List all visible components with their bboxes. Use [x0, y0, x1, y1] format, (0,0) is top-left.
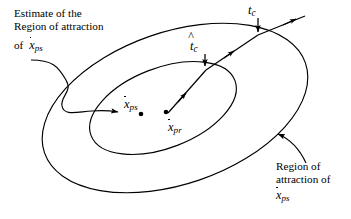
trajectory-arrowhead-outer — [283, 19, 296, 25]
hat-t: t — [190, 39, 194, 54]
symbol-x-ps-region: xps — [276, 187, 330, 204]
label-x-pr: xpr — [168, 119, 182, 136]
annotation-estimate-line2: Region of attraction — [14, 20, 103, 33]
point-x-ps — [139, 112, 144, 117]
label-x-ps: xps — [124, 96, 138, 113]
subscript-ps: ps — [281, 194, 289, 204]
annotation-region-line2: attraction of — [276, 173, 330, 186]
overbar-x: x — [29, 37, 34, 52]
annotation-of-word: of — [14, 39, 23, 51]
annotation-region-line1: Region of — [276, 160, 330, 173]
tc-subscript: c — [252, 8, 256, 18]
overbar-x: x — [124, 96, 130, 112]
overbar-x: x — [168, 119, 174, 135]
trajectory-arrowhead-inner — [178, 93, 186, 102]
x-ps-subscript: ps — [130, 102, 138, 112]
subscript-ps: ps — [35, 43, 43, 53]
leader-region-of-attraction — [278, 134, 306, 163]
x-pr-subscript: pr — [174, 125, 182, 135]
figure-canvas: Estimate of the Region of attraction ofx… — [0, 0, 351, 219]
label-tc: tc — [248, 3, 256, 19]
annotation-region-of-attraction: Region of attraction of xps — [276, 160, 330, 204]
point-x-pr — [164, 110, 169, 115]
label-tc-hat: tc — [190, 39, 198, 55]
annotation-estimate-symbol-line: ofxps — [14, 37, 43, 54]
inner-ellipse-estimate-region — [77, 43, 249, 173]
leader-estimate-region — [31, 60, 118, 113]
symbol-x-ps-estimate: xps — [29, 38, 43, 52]
trajectory-arrowhead-mid — [224, 51, 234, 58]
annotation-estimate-region: Estimate of the Region of attraction — [14, 7, 103, 33]
tc-hat-subscript: c — [194, 44, 198, 54]
annotation-estimate-line1: Estimate of the — [14, 7, 103, 20]
overbar-x: x — [276, 187, 281, 202]
